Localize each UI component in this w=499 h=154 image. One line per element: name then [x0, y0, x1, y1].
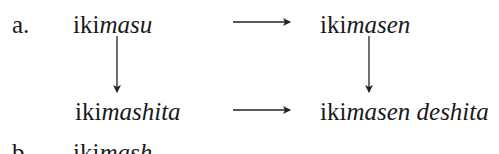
suffix: mash: [99, 139, 152, 154]
form-next: ikimash: [73, 140, 152, 154]
arrow-diagram: [0, 0, 499, 154]
stem: iki: [73, 139, 99, 154]
example-label-b: b.: [12, 140, 31, 154]
